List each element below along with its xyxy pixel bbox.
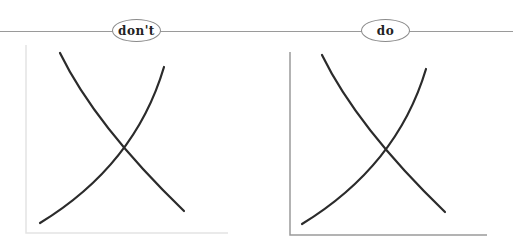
do-downward-curve [322, 55, 445, 212]
comparison-diagrams [0, 0, 513, 244]
dont-panel [26, 45, 228, 233]
do-panel [290, 52, 487, 235]
dont-upward-curve [40, 67, 164, 223]
do-upward-curve [302, 69, 426, 224]
do-axes [290, 52, 487, 235]
dont-downward-curve [60, 53, 184, 211]
dont-axes [26, 45, 228, 233]
